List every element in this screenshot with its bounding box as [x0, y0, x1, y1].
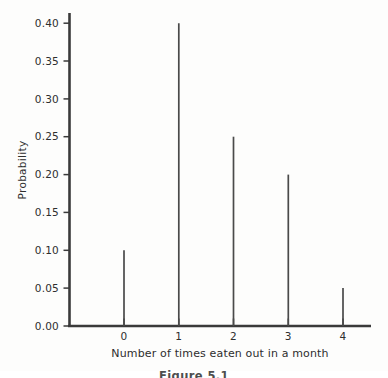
x-tick-label: 1 [175, 330, 182, 342]
x-tick-label: 2 [230, 330, 237, 342]
y-tick-label: 0.25 [35, 130, 59, 142]
figure-caption: Figure 5.1 [0, 370, 388, 378]
y-tick-label: 0.15 [35, 206, 59, 218]
y-tick-label: 0.30 [35, 93, 59, 105]
x-tick-label: 4 [340, 330, 347, 342]
y-tick-label: 0.20 [35, 168, 59, 180]
y-tick-label: 0.00 [35, 320, 59, 332]
x-tick-label: 0 [121, 330, 128, 342]
y-axis-title: Probability [16, 141, 28, 200]
y-tick-label: 0.10 [35, 244, 59, 256]
y-axis-ticks: 0.40 0.35 0.30 0.25 0.20 0.15 0.10 0.05 … [35, 17, 70, 332]
y-tick-label: 0.35 [35, 55, 59, 67]
x-tick-label: 3 [285, 330, 292, 342]
y-tick-label: 0.40 [35, 17, 59, 29]
data-spikes [124, 23, 343, 326]
y-tick-label: 0.05 [35, 282, 59, 294]
x-axis-title: Number of times eaten out in a month [111, 347, 328, 360]
